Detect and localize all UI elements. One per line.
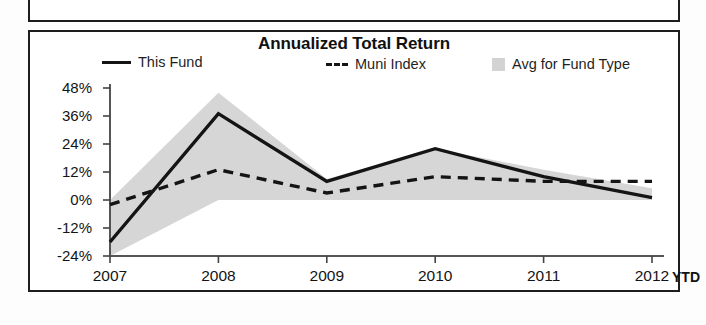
x-axis-tick-label: 2010: [400, 268, 470, 284]
y-axis-tick-label: 36%: [34, 108, 92, 123]
avg-fund-type-band: [110, 93, 652, 256]
x-axis-tick-label: 2008: [183, 268, 253, 284]
y-axis-tick-label: -12%: [34, 220, 92, 235]
adjacent-panel-fragment: [28, 0, 680, 22]
screenshot-root: Annualized Total Return This Fund Muni I…: [0, 0, 706, 325]
y-axis-tick-label: 24%: [34, 136, 92, 151]
chart-canvas: [30, 32, 682, 294]
x-axis-tick-label: 2007: [75, 268, 145, 284]
y-axis-tick-label: 0%: [34, 192, 92, 207]
x-axis-ytd-label: YTD: [672, 270, 700, 284]
y-axis-tick-label: 48%: [34, 80, 92, 95]
annualized-total-return-panel: Annualized Total Return This Fund Muni I…: [28, 30, 680, 292]
plot-area: 48%36%24%12%0%-12%-24% 20072008200920102…: [30, 32, 682, 294]
x-axis-tick-label: 2009: [292, 268, 362, 284]
y-axis-tick-label: 12%: [34, 164, 92, 179]
x-axis-tick-label: 2011: [509, 268, 579, 284]
y-axis-tick-label: -24%: [34, 248, 92, 263]
